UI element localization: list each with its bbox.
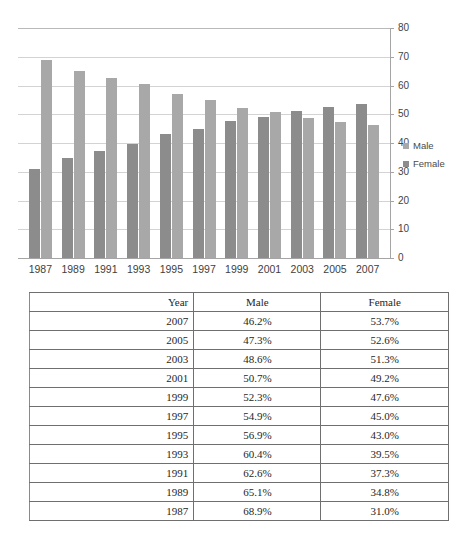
bar-group-2003 <box>286 28 319 258</box>
y-tick-label-10: 10 <box>398 224 409 234</box>
table-row: 200746.2%53.7% <box>30 312 449 331</box>
table-row: 200547.3%52.6% <box>30 331 449 350</box>
table-cell-year: 1993 <box>30 445 194 464</box>
y-tick-label-80: 80 <box>398 23 409 33</box>
x-tick-label-1987: 1987 <box>24 263 57 276</box>
x-tick-label-1997: 1997 <box>188 263 221 276</box>
table-row: 199556.9%43.0% <box>30 426 449 445</box>
data-table: Year Male Female 200746.2%53.7%200547.3%… <box>29 292 449 521</box>
bar-group-1997 <box>188 28 221 258</box>
table-row: 198768.9%31.0% <box>30 502 449 521</box>
table-cell-year: 1997 <box>30 407 194 426</box>
table-cell-year: 1991 <box>30 464 194 483</box>
table-row: 199754.9%45.0% <box>30 407 449 426</box>
table-cell-female: 47.6% <box>321 388 449 407</box>
bar-female-1987 <box>29 169 40 258</box>
x-tick-label-2005: 2005 <box>319 263 352 276</box>
bar-female-1995 <box>160 134 171 258</box>
table-cell-male: 65.1% <box>194 483 321 502</box>
table-cell-female: 51.3% <box>321 350 449 369</box>
legend-item-male[interactable]: Male <box>403 137 465 155</box>
y-tick-label-60: 60 <box>398 81 409 91</box>
legend-swatch-icon-male <box>403 143 409 149</box>
x-tick-label-2003: 2003 <box>286 263 319 276</box>
y-tick-label-0: 0 <box>398 253 404 263</box>
table-cell-year: 1999 <box>30 388 194 407</box>
table-cell-year: 2003 <box>30 350 194 369</box>
legend-label-male: Male <box>413 141 434 151</box>
bar-group-1987 <box>24 28 57 258</box>
table-cell-year: 2007 <box>30 312 194 331</box>
table-cell-male: 56.9% <box>194 426 321 445</box>
y-tick-10 <box>390 229 394 230</box>
table-row: 198965.1%34.8% <box>30 483 449 502</box>
bar-female-2003 <box>291 111 302 258</box>
table-cell-male: 54.9% <box>194 407 321 426</box>
y-tick-20 <box>390 201 394 202</box>
y-tick-30 <box>390 172 394 173</box>
table-cell-male: 47.3% <box>194 331 321 350</box>
table-cell-male: 60.4% <box>194 445 321 464</box>
table-cell-female: 43.0% <box>321 426 449 445</box>
x-tick-label-2007: 2007 <box>351 263 384 276</box>
table-header-row: Year Male Female <box>30 293 449 312</box>
x-tick-label-1989: 1989 <box>57 263 90 276</box>
y-tick-60 <box>390 86 394 87</box>
bar-male-1991 <box>106 78 117 258</box>
bar-group-2001 <box>253 28 286 258</box>
table-cell-male: 62.6% <box>194 464 321 483</box>
table-row: 200150.7%49.2% <box>30 369 449 388</box>
bar-chart: 80706050403020100 1987198919911993199519… <box>0 0 467 288</box>
table-row: 199360.4%39.5% <box>30 445 449 464</box>
x-axis-line <box>18 258 391 259</box>
bar-male-1995 <box>172 94 183 258</box>
x-axis-labels: 1987198919911993199519971999200120032005… <box>18 263 390 276</box>
table-cell-male: 52.3% <box>194 388 321 407</box>
y-tick-label-20: 20 <box>398 196 409 206</box>
bar-group-1999 <box>220 28 253 258</box>
bars-layer <box>18 28 390 258</box>
bar-group-1995 <box>155 28 188 258</box>
bar-female-1993 <box>127 144 138 258</box>
bar-female-1997 <box>193 129 204 258</box>
y-axis: 80706050403020100 <box>390 28 391 259</box>
bar-female-1999 <box>225 121 236 258</box>
table-cell-year: 1987 <box>30 502 194 521</box>
bar-male-2001 <box>270 112 281 258</box>
legend-item-female[interactable]: Female <box>403 155 465 173</box>
bar-male-2003 <box>303 118 314 258</box>
x-tick-label-1993: 1993 <box>122 263 155 276</box>
bar-female-2007 <box>356 104 367 258</box>
bar-female-1991 <box>94 151 105 258</box>
table-cell-year: 1995 <box>30 426 194 445</box>
y-tick-50 <box>390 114 394 115</box>
chart-legend: MaleFemale <box>403 137 465 173</box>
table-header-male: Male <box>194 293 321 312</box>
legend-swatch-icon-female <box>403 161 409 167</box>
table-cell-female: 49.2% <box>321 369 449 388</box>
table-cell-male: 48.6% <box>194 350 321 369</box>
x-tick-label-1999: 1999 <box>220 263 253 276</box>
table-cell-male: 68.9% <box>194 502 321 521</box>
x-tick-label-1995: 1995 <box>155 263 188 276</box>
bar-male-2005 <box>335 122 346 258</box>
table-head: Year Male Female <box>30 293 449 312</box>
bar-female-2005 <box>323 107 334 258</box>
table-cell-female: 34.8% <box>321 483 449 502</box>
bar-group-1989 <box>57 28 90 258</box>
table-header-year: Year <box>30 293 194 312</box>
table-header-female: Female <box>321 293 449 312</box>
table-cell-year: 1989 <box>30 483 194 502</box>
bar-female-1989 <box>62 158 73 258</box>
bar-group-1993 <box>122 28 155 258</box>
x-tick-label-1991: 1991 <box>89 263 122 276</box>
plot-area <box>18 28 390 258</box>
bar-group-1991 <box>89 28 122 258</box>
bar-male-2007 <box>368 125 379 258</box>
bar-group-2007 <box>351 28 384 258</box>
y-tick-80 <box>390 28 394 29</box>
bar-female-2001 <box>258 117 269 258</box>
table-cell-year: 2005 <box>30 331 194 350</box>
table-cell-female: 39.5% <box>321 445 449 464</box>
table-row: 199952.3%47.6% <box>30 388 449 407</box>
